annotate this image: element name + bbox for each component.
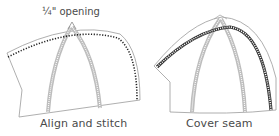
opening-annotation: ¼" opening: [42, 6, 100, 17]
right-cover-band: [157, 27, 271, 110]
left-seam-band-left-inner: [48, 27, 71, 112]
right-cover-band-dots: [157, 27, 271, 110]
right-panel-illustration: [154, 15, 276, 113]
sewing-diagram: [0, 0, 279, 136]
left-seam-band-right-inner: [72, 27, 100, 108]
left-fabric-outline: [7, 30, 140, 117]
left-panel-illustration: [7, 22, 140, 117]
left-seam-band-right: [72, 27, 100, 108]
left-stitch-line: [8, 34, 137, 100]
left-caption: Align and stitch: [40, 117, 127, 130]
right-caption: Cover seam: [186, 117, 253, 130]
left-seam-band-left: [48, 27, 71, 112]
